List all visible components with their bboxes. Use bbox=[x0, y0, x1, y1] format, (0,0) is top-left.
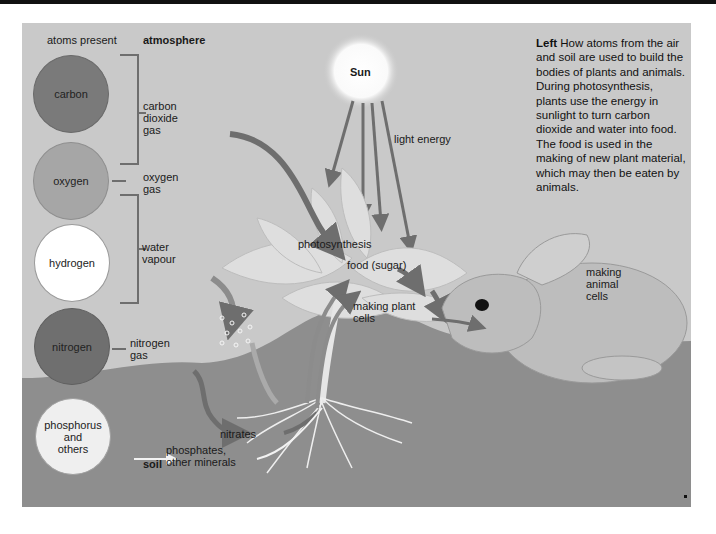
atom-label: hydrogen bbox=[49, 257, 95, 269]
atom-label: oxygen bbox=[53, 175, 88, 187]
diagram-panel: atoms present atmosphere soil carbon oxy… bbox=[22, 23, 691, 507]
atom-oxygen: oxygen bbox=[33, 142, 109, 220]
phosphates-label: phosphates, other minerals bbox=[166, 444, 236, 468]
sun-label: Sun bbox=[350, 66, 371, 78]
water-droplets bbox=[220, 313, 252, 347]
oxygen-gas-label: oxygen gas bbox=[143, 171, 178, 195]
making-animal-cells-label: making animal cells bbox=[586, 266, 621, 302]
water-vapour-label: water vapour bbox=[142, 241, 176, 265]
figure-caption: Left How atoms from the air and soil are… bbox=[536, 36, 686, 194]
atom-brackets bbox=[112, 55, 146, 349]
atom-label: phosphorus and others bbox=[44, 419, 102, 455]
nitrogen-gas-label: nitrogen gas bbox=[130, 337, 170, 361]
atom-hydrogen: hydrogen bbox=[34, 224, 110, 302]
caption-text: How atoms from the air and soil are used… bbox=[536, 37, 686, 193]
food-sugar-label: food (sugar) bbox=[347, 259, 406, 271]
soil-heading: soil bbox=[143, 458, 162, 470]
carbon-dioxide-label: carbon dioxide gas bbox=[143, 100, 178, 136]
light-energy-label: light energy bbox=[394, 133, 451, 145]
caption-lead: Left bbox=[536, 37, 557, 49]
atoms-present-heading: atoms present bbox=[47, 34, 117, 46]
page-mark bbox=[684, 495, 687, 498]
top-rule bbox=[0, 0, 716, 4]
atom-phosphorus: phosphorus and others bbox=[35, 398, 111, 475]
atmosphere-heading: atmosphere bbox=[143, 34, 205, 46]
nitrates-label: nitrates bbox=[220, 428, 256, 440]
atom-label: carbon bbox=[54, 88, 88, 100]
atom-nitrogen: nitrogen bbox=[34, 308, 110, 385]
atom-label: nitrogen bbox=[52, 341, 92, 353]
atom-carbon: carbon bbox=[33, 55, 109, 133]
making-plant-cells-label: making plant cells bbox=[353, 300, 415, 324]
photosynthesis-label: photosynthesis bbox=[298, 238, 371, 250]
